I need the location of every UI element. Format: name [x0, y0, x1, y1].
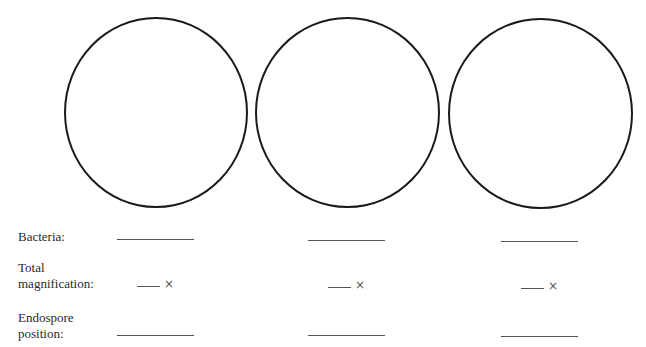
- endospore-position-label-line2: position:: [18, 326, 74, 342]
- magnification-blank-1[interactable]: [137, 286, 160, 287]
- endospore-position-blank-1[interactable]: [117, 335, 194, 336]
- times-icon: ×: [548, 280, 558, 292]
- magnification-blank-3[interactable]: [521, 288, 544, 289]
- field-of-view-circle-1: [64, 17, 248, 208]
- field-of-view-circle-3: [448, 18, 633, 209]
- endospore-position-blank-2[interactable]: [308, 335, 385, 336]
- field-of-view-circle-2: [255, 17, 440, 208]
- magnification-blank-2[interactable]: [328, 287, 351, 288]
- bacteria-blank-3[interactable]: [501, 241, 578, 242]
- total-magnification-label-line1: Total: [18, 260, 94, 276]
- endospore-position-blank-3[interactable]: [501, 336, 578, 337]
- endospore-position-label: Endospore position:: [18, 310, 74, 342]
- bacteria-label: Bacteria:: [18, 229, 65, 245]
- bacteria-blank-2[interactable]: [308, 240, 385, 241]
- times-icon: ×: [355, 279, 365, 291]
- total-magnification-label-line2: magnification:: [18, 276, 94, 292]
- total-magnification-label: Total magnification:: [18, 260, 94, 292]
- endospore-position-label-line1: Endospore: [18, 310, 74, 326]
- bacteria-blank-1[interactable]: [117, 239, 194, 240]
- times-icon: ×: [164, 278, 174, 290]
